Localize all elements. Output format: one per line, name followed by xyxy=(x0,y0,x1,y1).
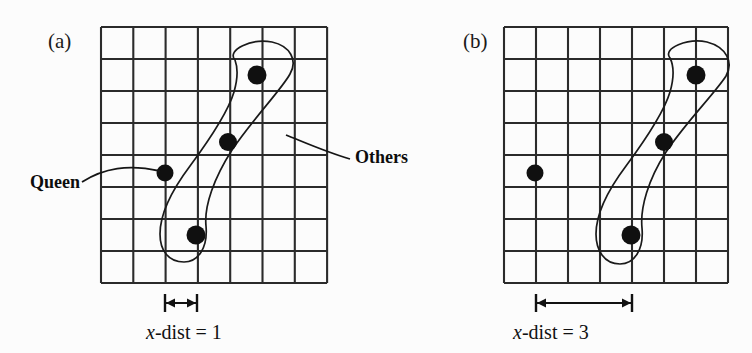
queen-label: Queen xyxy=(30,172,80,192)
panel-b-measure xyxy=(536,294,632,312)
other-dot xyxy=(655,133,673,151)
queen-dot xyxy=(527,165,544,182)
panel-b-dist-var: x xyxy=(512,321,522,343)
panel-b: (b) x-dist = 3 xyxy=(463,27,729,343)
measure-arrow-right xyxy=(187,299,196,308)
panel-a: (a) Queen x-dist = 1 xyxy=(30,27,327,343)
others-annotation: Others xyxy=(286,135,408,167)
panel-b-dist-label: x-dist = 3 xyxy=(512,321,589,343)
panel-a-measure xyxy=(165,294,197,312)
figure-canvas: (a) Queen x-dist = 1 Others (b) x-dist =… xyxy=(0,0,752,353)
panel-b-tag: (b) xyxy=(463,29,488,53)
figure-root: (a) Queen x-dist = 1 Others (b) x-dist =… xyxy=(0,0,752,353)
panel-a-tag: (a) xyxy=(48,29,71,53)
other-dot xyxy=(687,66,706,85)
panel-a-dist-label: x-dist = 1 xyxy=(145,321,222,343)
panel-a-cluster-outline xyxy=(160,41,293,262)
other-dot xyxy=(187,226,206,245)
others-label: Others xyxy=(355,147,408,167)
measure-arrow-left xyxy=(166,299,175,308)
other-dot xyxy=(219,133,237,151)
panel-b-dist-value: -dist = 3 xyxy=(522,321,589,343)
panel-b-cluster-outline xyxy=(596,41,729,264)
queen-leader-line xyxy=(82,168,160,182)
measure-arrow-left xyxy=(537,299,546,308)
panel-a-dist-value: -dist = 1 xyxy=(155,321,222,343)
panel-a-dist-var: x xyxy=(145,321,155,343)
other-dot xyxy=(622,226,641,245)
queen-dot xyxy=(157,165,174,182)
other-dot xyxy=(248,66,267,85)
measure-arrow-right xyxy=(622,299,631,308)
panel-b-grid xyxy=(504,27,728,283)
